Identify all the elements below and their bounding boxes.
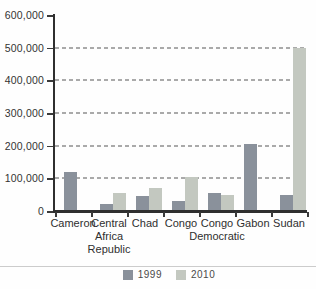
y-axis-tick-label: 300,000	[0, 107, 44, 119]
y-axis-tick-label: 100,000	[0, 172, 44, 184]
y-axis-tick	[47, 113, 53, 115]
legend-item-2010: 2010	[176, 269, 215, 280]
bar-2010	[293, 48, 306, 211]
bar-1999	[136, 196, 149, 211]
y-axis-tick	[47, 146, 53, 148]
x-axis-category-label: Sudan	[257, 217, 316, 230]
y-axis-tick-label: 600,000	[0, 9, 44, 21]
bar-2010	[185, 177, 198, 211]
bar-group-congo	[199, 15, 235, 211]
y-axis-tick	[47, 15, 53, 17]
bar-1999	[280, 195, 293, 211]
bar-1999	[64, 172, 77, 211]
legend-label: 1999	[138, 269, 162, 280]
chart-legend: 19992010	[0, 269, 316, 280]
legend-swatch-2010	[176, 270, 186, 280]
bar-group-congo	[163, 15, 199, 211]
bar-chart: 600,000500,000400,000300,000200,000100,0…	[0, 0, 316, 289]
bar-1999	[208, 193, 221, 211]
y-axis-tick-label: 200,000	[0, 140, 44, 152]
bar-group-sudan	[271, 15, 307, 211]
bar-group-central	[91, 15, 127, 211]
y-axis-tick-label: 500,000	[0, 42, 44, 54]
y-axis-tick	[47, 211, 53, 213]
bar-group-cameron	[55, 15, 91, 211]
legend-label: 2010	[191, 269, 215, 280]
y-axis-line	[53, 14, 55, 212]
y-axis-tick	[47, 80, 53, 82]
bar-1999	[244, 144, 257, 211]
plot-area	[55, 15, 307, 211]
y-axis-tick	[47, 48, 53, 50]
legend-divider-line	[0, 266, 316, 267]
bar-group-chad	[127, 15, 163, 211]
legend-swatch-1999	[123, 270, 133, 280]
bar-2010	[221, 195, 234, 211]
y-axis-tick-label: 400,000	[0, 74, 44, 86]
y-axis-tick-label: 0	[0, 205, 44, 217]
legend-item-1999: 1999	[123, 269, 162, 280]
y-axis-tick	[47, 178, 53, 180]
bar-2010	[149, 188, 162, 211]
bar-group-gabon	[235, 15, 271, 211]
bar-2010	[113, 193, 126, 211]
